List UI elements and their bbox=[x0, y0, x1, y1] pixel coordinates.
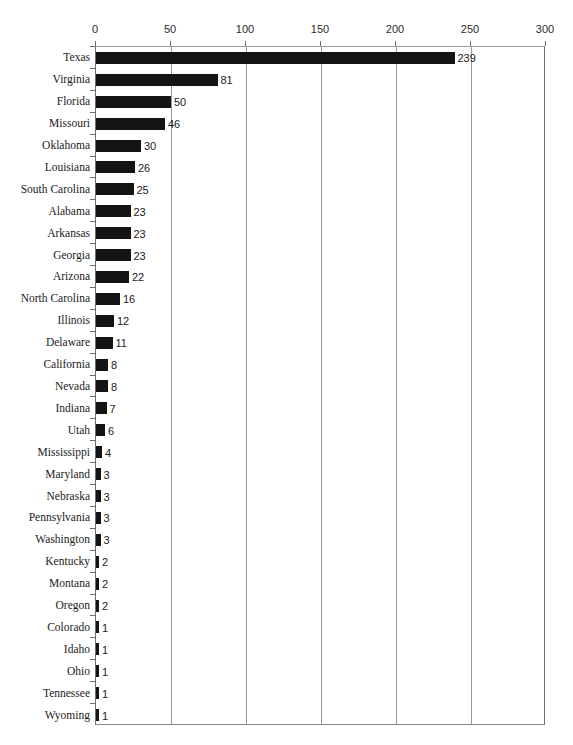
plot-area: 2398150463026252323232216121188764333322… bbox=[95, 46, 545, 725]
x-axis-tick-label: 0 bbox=[92, 24, 98, 35]
bar bbox=[96, 446, 102, 458]
x-axis-tick-label: 250 bbox=[461, 24, 479, 35]
bar bbox=[96, 96, 171, 108]
y-axis-tick-mark bbox=[90, 68, 95, 69]
bar-value-label: 12 bbox=[117, 316, 129, 327]
bar-row: 3 bbox=[96, 485, 544, 507]
bar-row: 50 bbox=[96, 91, 544, 113]
y-axis-tick-mark bbox=[90, 134, 95, 135]
bar-value-label: 16 bbox=[123, 294, 135, 305]
bar-row: 4 bbox=[96, 441, 544, 463]
y-axis-tick-mark bbox=[90, 177, 95, 178]
y-axis-tick-mark bbox=[90, 528, 95, 529]
bar-value-label: 23 bbox=[134, 251, 146, 262]
bar bbox=[96, 709, 99, 721]
bar-row: 22 bbox=[96, 266, 544, 288]
bar-row: 30 bbox=[96, 135, 544, 157]
y-axis-tick-mark bbox=[90, 637, 95, 638]
bar-row: 2 bbox=[96, 573, 544, 595]
bar bbox=[96, 227, 131, 239]
bar-value-label: 1 bbox=[102, 623, 108, 634]
bar-row: 7 bbox=[96, 397, 544, 419]
category-label: Utah bbox=[0, 425, 90, 437]
bar-row: 26 bbox=[96, 157, 544, 179]
category-label: Delaware bbox=[0, 337, 90, 349]
category-label: Tennessee bbox=[0, 688, 90, 700]
bar-row: 23 bbox=[96, 244, 544, 266]
x-axis-tick-label: 150 bbox=[311, 24, 329, 35]
bar bbox=[96, 424, 105, 436]
category-label: Ohio bbox=[0, 666, 90, 678]
bar bbox=[96, 359, 108, 371]
bar-value-label: 3 bbox=[104, 492, 110, 503]
bar-row: 6 bbox=[96, 419, 544, 441]
category-label: Colorado bbox=[0, 622, 90, 634]
bar-value-label: 26 bbox=[138, 163, 150, 174]
bar bbox=[96, 118, 165, 130]
bar bbox=[96, 665, 99, 677]
bar-row: 8 bbox=[96, 354, 544, 376]
bar bbox=[96, 337, 113, 349]
y-axis-tick-mark bbox=[90, 462, 95, 463]
category-label: Maryland bbox=[0, 469, 90, 481]
y-axis-tick-mark bbox=[90, 572, 95, 573]
bar-value-label: 7 bbox=[110, 404, 116, 415]
category-label: Illinois bbox=[0, 315, 90, 327]
category-label: Idaho bbox=[0, 644, 90, 656]
bar-value-label: 30 bbox=[144, 141, 156, 152]
bar-value-label: 1 bbox=[102, 667, 108, 678]
y-axis-tick-mark bbox=[90, 265, 95, 266]
bar-row: 81 bbox=[96, 69, 544, 91]
bar-value-label: 3 bbox=[104, 513, 110, 524]
category-label: Nebraska bbox=[0, 491, 90, 503]
bar bbox=[96, 468, 101, 480]
y-axis-tick-mark bbox=[90, 418, 95, 419]
category-label: Louisiana bbox=[0, 162, 90, 174]
category-label: Montana bbox=[0, 578, 90, 590]
category-label: California bbox=[0, 359, 90, 371]
y-axis-tick-mark bbox=[90, 112, 95, 113]
category-label: Nevada bbox=[0, 381, 90, 393]
y-axis-tick-mark bbox=[90, 353, 95, 354]
y-axis-tick-mark bbox=[90, 46, 95, 47]
bar-row: 8 bbox=[96, 376, 544, 398]
bar-value-label: 1 bbox=[102, 645, 108, 656]
y-axis-tick-mark bbox=[90, 659, 95, 660]
bar-row: 3 bbox=[96, 463, 544, 485]
y-axis-tick-mark bbox=[90, 484, 95, 485]
bar-value-label: 23 bbox=[134, 229, 146, 240]
bar-row: 16 bbox=[96, 288, 544, 310]
category-label: Georgia bbox=[0, 250, 90, 262]
category-label: Texas bbox=[0, 52, 90, 64]
y-axis-tick-mark bbox=[90, 156, 95, 157]
bar-chart: 050100150200250300 239815046302625232323… bbox=[0, 0, 573, 745]
x-axis-tick-label: 100 bbox=[236, 24, 254, 35]
bar-value-label: 3 bbox=[104, 470, 110, 481]
bar-row: 23 bbox=[96, 200, 544, 222]
x-axis-tick-label: 50 bbox=[164, 24, 176, 35]
bar-value-label: 46 bbox=[168, 119, 180, 130]
category-label: Kentucky bbox=[0, 556, 90, 568]
bar-value-label: 4 bbox=[105, 448, 111, 459]
category-label: Arkansas bbox=[0, 228, 90, 240]
bar bbox=[96, 380, 108, 392]
bar bbox=[96, 600, 99, 612]
bar-value-label: 23 bbox=[134, 207, 146, 218]
category-label: Wyoming bbox=[0, 710, 90, 722]
x-axis-tick-label: 200 bbox=[386, 24, 404, 35]
y-axis-tick-mark bbox=[90, 331, 95, 332]
bar-value-label: 81 bbox=[221, 75, 233, 86]
category-label: Oklahoma bbox=[0, 140, 90, 152]
bar bbox=[96, 687, 99, 699]
bar-value-label: 11 bbox=[116, 338, 127, 349]
bar bbox=[96, 621, 99, 633]
bar bbox=[96, 74, 218, 86]
y-axis-tick-mark bbox=[90, 703, 95, 704]
bar-value-label: 239 bbox=[458, 53, 476, 64]
bar bbox=[96, 315, 114, 327]
bar-value-label: 1 bbox=[102, 689, 108, 700]
category-label: Arizona bbox=[0, 271, 90, 283]
bar bbox=[96, 183, 134, 195]
bar-row: 1 bbox=[96, 704, 544, 726]
bar bbox=[96, 161, 135, 173]
